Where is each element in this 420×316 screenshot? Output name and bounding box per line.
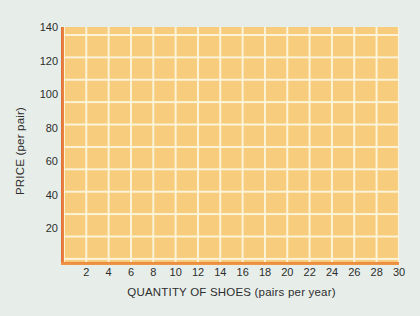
x-tick-label: 22 (298, 266, 322, 279)
chart-canvas: 20406080100120140 2468101214161820222426… (0, 0, 420, 316)
x-tick-label: 4 (97, 266, 121, 279)
x-axis-title: QUANTITY OF SHOES (pairs per year) (64, 286, 399, 298)
x-tick-label: 6 (119, 266, 143, 279)
x-tick-label: 16 (231, 266, 255, 279)
x-tick-label: 8 (141, 266, 165, 279)
y-tick-label: 60 (0, 156, 58, 167)
x-tick-label: 28 (365, 266, 389, 279)
y-tick-label: 100 (0, 89, 58, 100)
y-axis-line (61, 27, 64, 265)
x-tick-label: 2 (74, 266, 98, 279)
y-tick-label: 120 (0, 55, 58, 66)
y-tick-label: 20 (0, 223, 58, 234)
y-tick-label: 140 (0, 22, 58, 33)
x-tick-label: 18 (253, 266, 277, 279)
x-tick-label: 30 (387, 266, 411, 279)
y-axis-title: PRICE (per pair) (14, 96, 26, 206)
x-tick-label: 20 (275, 266, 299, 279)
y-tick-label: 40 (0, 189, 58, 200)
x-tick-label: 12 (186, 266, 210, 279)
x-tick-label: 14 (208, 266, 232, 279)
plot-area (64, 27, 399, 262)
y-tick-label: 80 (0, 122, 58, 133)
x-axis-line (61, 262, 399, 265)
x-tick-label: 26 (342, 266, 366, 279)
x-tick-label: 10 (164, 266, 188, 279)
x-tick-label: 24 (320, 266, 344, 279)
